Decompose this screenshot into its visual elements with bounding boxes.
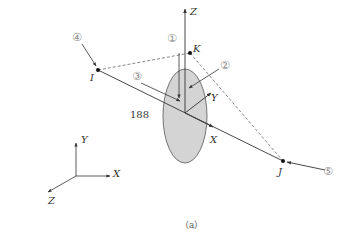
figure-caption: （a） xyxy=(180,220,203,230)
global-z-axis xyxy=(48,176,76,192)
line-j-to-marker5 xyxy=(287,162,325,170)
node-k-point xyxy=(188,51,192,55)
marker4-arrow xyxy=(82,44,96,66)
beam-element-diagram: I J K Z Y X 188 ① ② ③ ④ ⑤ Y X Z （a） xyxy=(0,0,342,236)
local-y-label: Y xyxy=(211,92,219,103)
node-j-point xyxy=(281,159,285,163)
node-k-label: K xyxy=(192,43,201,54)
node-i-point xyxy=(96,68,100,72)
local-x-label: X xyxy=(209,134,218,145)
global-y-label: Y xyxy=(81,134,89,145)
marker-1: ① xyxy=(167,32,177,45)
global-z-label: Z xyxy=(47,195,56,206)
dashed-line-i-k xyxy=(98,53,190,70)
marker-2: ② xyxy=(220,59,230,72)
node-j-label: J xyxy=(276,166,283,177)
element-number-label: 188 xyxy=(130,109,149,120)
node-i-label: I xyxy=(89,72,95,83)
marker-4: ④ xyxy=(72,31,82,44)
marker-3: ③ xyxy=(132,70,142,83)
local-z-label: Z xyxy=(189,6,198,17)
marker-5: ⑤ xyxy=(323,165,333,178)
global-x-label: X xyxy=(112,168,121,179)
